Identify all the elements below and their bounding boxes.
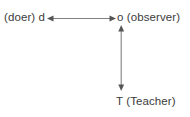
- double-arrow-vertical-icon: [118, 25, 124, 91]
- diagram-canvas: (doer) d o (observer) T (Teacher): [0, 0, 190, 117]
- arrowhead-right-icon: [110, 16, 117, 22]
- node-label-doer: (doer) d: [4, 11, 45, 24]
- double-arrow-horizontal-icon: [47, 16, 116, 22]
- arrowhead-left-icon: [47, 16, 54, 22]
- node-label-observer: o (observer): [117, 11, 180, 24]
- node-label-teacher: T (Teacher): [116, 95, 176, 108]
- arrowhead-down-icon: [118, 85, 124, 92]
- arrowhead-up-icon: [118, 25, 124, 32]
